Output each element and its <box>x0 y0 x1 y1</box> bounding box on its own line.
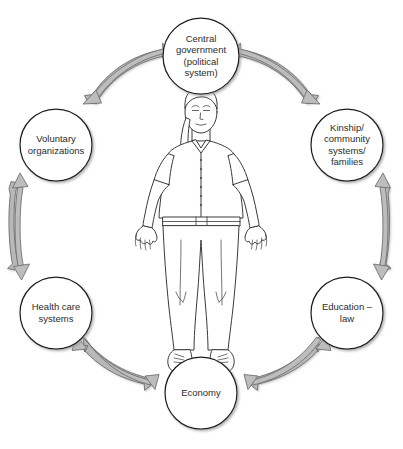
node-label-health-care-systems: Health caresystems <box>32 301 81 323</box>
arrow-pair-education-economy <box>244 335 331 390</box>
node-kinship-community-systems-families[interactable]: Kinship/communitysystems/families <box>311 109 383 181</box>
node-voluntary-organizations[interactable]: Voluntaryorganizations <box>20 109 92 181</box>
person-figure <box>135 89 266 372</box>
node-economy[interactable]: Economy <box>165 357 237 429</box>
left-hand <box>136 226 157 244</box>
right-hand <box>245 226 266 244</box>
node-label-economy: Economy <box>181 387 221 398</box>
diagram-canvas: Centralgovernment(politicalsystem)Kinshi… <box>0 0 403 449</box>
arrow-pair-voluntary-central <box>83 44 177 104</box>
arrow-pair-central-kinship <box>227 44 321 104</box>
trousers <box>163 226 239 350</box>
node-central-government[interactable]: Centralgovernment(politicalsystem) <box>163 18 239 94</box>
node-health-care-systems[interactable]: Health caresystems <box>20 277 92 349</box>
node-education-law[interactable]: Education –law <box>311 277 383 349</box>
diagram-svg: Centralgovernment(politicalsystem)Kinshi… <box>0 0 403 449</box>
